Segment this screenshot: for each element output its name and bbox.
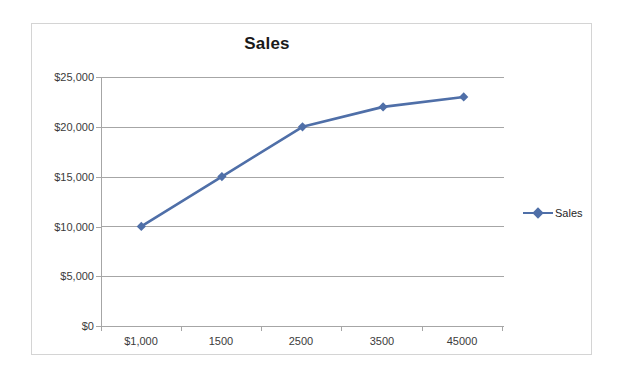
x-tick-label: $1,000 [101, 335, 181, 347]
x-tick-mark [101, 326, 102, 331]
plot-area [101, 77, 504, 326]
x-tick-label: 2500 [261, 335, 341, 347]
legend: Sales [523, 206, 583, 220]
chart-title: Sales [32, 34, 502, 54]
series-sales [101, 77, 504, 326]
data-point-marker [459, 92, 468, 101]
x-tick-label: 3500 [342, 335, 422, 347]
y-tick-label: $10,000 [32, 221, 94, 233]
y-tick-label: $0 [32, 320, 94, 332]
x-tick-mark [422, 326, 423, 331]
y-tick-label: $5,000 [32, 270, 94, 282]
x-tick-label: 1500 [181, 335, 261, 347]
x-tick-mark [261, 326, 262, 331]
legend-marker-icon [523, 206, 553, 220]
series-markers [137, 92, 469, 231]
y-axis-labels: $25,000 $20,000 $15,000 $10,000 $5,000 $… [32, 24, 94, 356]
y-tick-label: $20,000 [32, 121, 94, 133]
x-tick-mark [502, 326, 503, 331]
y-tick-label: $25,000 [32, 71, 94, 83]
x-tick-label: 45000 [422, 335, 502, 347]
x-tick-mark [341, 326, 342, 331]
legend-label: Sales [555, 207, 583, 219]
series-line [141, 97, 463, 226]
data-point-marker [379, 102, 388, 111]
gridline [101, 326, 504, 327]
chart-frame: Sales $25,000 $20,000 $15,000 $10,000 $5… [31, 23, 592, 355]
y-tick-label: $15,000 [32, 171, 94, 183]
x-tick-mark [181, 326, 182, 331]
